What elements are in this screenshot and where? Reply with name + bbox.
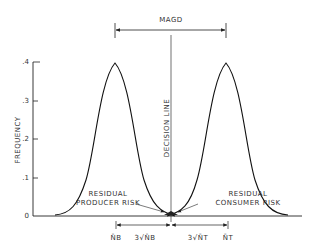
mean-t-label: N̄T <box>223 233 234 242</box>
y-axis-label: FREQUENCY <box>14 116 22 163</box>
producer-risk-label-2: PRODUCER RISK <box>76 199 140 207</box>
producer-risk-label-1: RESIDUAL <box>89 190 128 198</box>
mean-b-label: N̄B <box>110 233 121 242</box>
y-tick-label: .3 <box>22 97 29 105</box>
y-tick-label: .2 <box>22 135 29 143</box>
y-tick-label: .1 <box>22 174 29 182</box>
frequency-diagram: MAGD .4 .3 .2 .1 0 FREQUENCY DECISION LI… <box>0 0 312 251</box>
spread-t-label: 3√N̄T <box>188 233 209 242</box>
test-distribution-curve <box>167 63 288 216</box>
y-tick-label: .4 <box>22 58 29 66</box>
decision-line-label: DECISION LINE <box>163 99 171 157</box>
consumer-risk-pointer <box>178 204 198 212</box>
spread-dimension: N̄B 3√N̄B 3√N̄T N̄T <box>110 221 233 242</box>
magd-dimension: MAGD <box>115 16 226 38</box>
y-axis: .4 .3 .2 .1 0 FREQUENCY <box>14 58 40 220</box>
magd-label: MAGD <box>159 16 183 24</box>
spread-b-label: 3√N̄B <box>135 233 156 242</box>
consumer-risk-label-1: RESIDUAL <box>229 190 268 198</box>
y-tick-label: 0 <box>25 212 29 220</box>
consumer-risk-label-2: CONSUMER RISK <box>215 199 280 207</box>
